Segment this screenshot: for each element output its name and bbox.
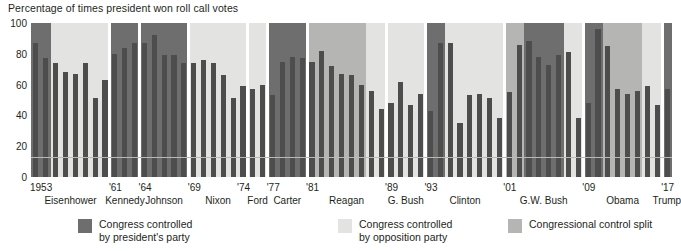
y-axis-tick-40: 40 — [16, 110, 27, 121]
bar-2015[interactable] — [645, 86, 650, 177]
bar-2010[interactable] — [595, 29, 600, 177]
control-band-split — [307, 23, 366, 177]
term-divider — [503, 23, 506, 177]
x-axis-president-obama: Obama — [606, 195, 639, 206]
bar-1986[interactable] — [359, 85, 364, 177]
x-axis-year-01: '01 — [503, 182, 516, 193]
bar-1975[interactable] — [250, 89, 255, 177]
x-axis-year-17: '17 — [661, 182, 674, 193]
plot-area: 020406080100 — [0, 20, 672, 180]
bar-2013[interactable] — [625, 94, 630, 177]
term-divider — [108, 23, 111, 177]
bar-2000[interactable] — [497, 118, 502, 177]
bar-1990[interactable] — [398, 82, 403, 177]
legend-swatch-split — [508, 219, 522, 233]
legend-label-president: Congress controlled by president's party — [99, 218, 192, 243]
bar-2014[interactable] — [635, 91, 640, 177]
x-axis-president-nixon: Nixon — [205, 195, 231, 206]
bar-1993[interactable] — [428, 111, 433, 177]
legend-item-president[interactable]: Congress controlled by president's party — [78, 218, 192, 243]
bar-1992[interactable] — [418, 94, 423, 177]
term-divider — [424, 23, 427, 177]
term-divider — [582, 23, 585, 177]
bar-1985[interactable] — [349, 75, 354, 177]
x-axis-president-g-w-bush: G.W. Bush — [520, 195, 568, 206]
bars-container — [31, 23, 672, 177]
bar-2005[interactable] — [546, 65, 551, 177]
bar-1961[interactable] — [112, 54, 117, 177]
legend-label-split: Congressional control split — [529, 218, 652, 231]
bar-2016[interactable] — [655, 105, 660, 177]
x-axis-year-69: '69 — [188, 182, 201, 193]
x-axis-year-81: '81 — [306, 182, 319, 193]
legend-swatch-president — [78, 219, 92, 233]
x-axis-president-eisenhower: Eisenhower — [44, 195, 96, 206]
term-divider — [385, 23, 388, 177]
x-axis: 1953'61'64'69'74'77'81'89'93'01'09'17Eis… — [0, 182, 672, 212]
axis-baseline — [31, 157, 672, 158]
legend-item-opposition[interactable]: Congress controlled by opposition party — [338, 218, 452, 243]
bar-1991[interactable] — [408, 105, 413, 177]
bar-2007[interactable] — [566, 52, 571, 177]
bar-2004[interactable] — [536, 57, 541, 177]
bar-1966[interactable] — [162, 55, 167, 177]
legend-item-split[interactable]: Congressional control split — [508, 218, 652, 233]
y-axis-tick-60: 60 — [16, 79, 27, 90]
bar-1971[interactable] — [211, 63, 216, 177]
bar-1979[interactable] — [290, 57, 295, 177]
bar-1980[interactable] — [300, 58, 305, 177]
bar-1973[interactable] — [231, 98, 236, 177]
bar-1960[interactable] — [102, 80, 107, 177]
x-axis-year-74: '74 — [237, 182, 250, 193]
x-axis-president-clinton: Clinton — [449, 195, 480, 206]
bar-1957[interactable] — [73, 74, 78, 177]
bar-1954[interactable] — [43, 58, 48, 177]
chart-title: Percentage of times president won roll c… — [8, 2, 238, 14]
bar-1982[interactable] — [319, 51, 324, 177]
x-axis-year-93: '93 — [424, 182, 437, 193]
bar-1988[interactable] — [379, 109, 384, 177]
x-axis-year-64: '64 — [138, 182, 151, 193]
bar-1981[interactable] — [309, 62, 314, 178]
x-axis-year-89: '89 — [385, 182, 398, 193]
bar-1959[interactable] — [93, 98, 98, 177]
bar-1965[interactable] — [152, 35, 157, 177]
bar-1996[interactable] — [457, 123, 462, 177]
y-axis-tick-20: 20 — [16, 141, 27, 152]
control-band-opposition — [189, 23, 248, 177]
bar-2001[interactable] — [507, 92, 512, 177]
term-divider — [661, 23, 664, 177]
legend-label-opposition: Congress controlled by opposition party — [359, 218, 452, 243]
bar-1956[interactable] — [63, 72, 68, 177]
bar-1978[interactable] — [280, 62, 285, 178]
bar-2017[interactable] — [665, 89, 670, 177]
bar-1958[interactable] — [83, 63, 88, 177]
bar-1969[interactable] — [191, 63, 196, 177]
x-axis-year-09: '09 — [582, 182, 595, 193]
bar-2012[interactable] — [615, 89, 620, 177]
bar-1987[interactable] — [369, 91, 374, 177]
bar-2008[interactable] — [576, 118, 581, 177]
x-axis-year-61: '61 — [109, 182, 122, 193]
y-axis-tick-100: 100 — [10, 18, 27, 29]
bar-1984[interactable] — [339, 74, 344, 177]
bar-1997[interactable] — [467, 95, 472, 177]
bar-1983[interactable] — [329, 66, 334, 177]
bar-2009[interactable] — [586, 103, 591, 177]
bar-1989[interactable] — [388, 103, 393, 177]
bar-1998[interactable] — [477, 94, 482, 177]
bar-1970[interactable] — [201, 60, 206, 177]
bar-1974[interactable] — [240, 86, 245, 177]
control-band-opposition — [445, 23, 504, 177]
bar-1955[interactable] — [53, 63, 58, 177]
control-band-opposition — [51, 23, 110, 177]
bar-1968[interactable] — [181, 63, 186, 177]
y-axis-tick-80: 80 — [16, 48, 27, 59]
term-divider — [246, 23, 249, 177]
bar-1967[interactable] — [171, 55, 176, 177]
bar-2006[interactable] — [556, 55, 561, 177]
bar-1976[interactable] — [260, 85, 265, 177]
bar-1977[interactable] — [270, 95, 275, 177]
bar-1972[interactable] — [221, 75, 226, 177]
bar-1999[interactable] — [487, 98, 492, 177]
